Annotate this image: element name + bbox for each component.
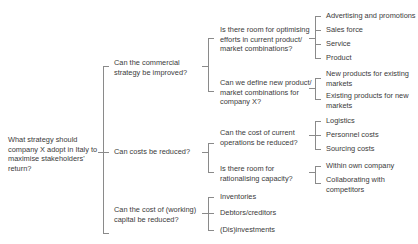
- leaf-disinvestments: (Dis)investments: [220, 225, 275, 235]
- node-new-combinations: Can we define new product/ market combin…: [220, 78, 312, 107]
- leaf-sourcing-costs: Sourcing costs: [326, 144, 374, 154]
- connector-lines: [0, 0, 418, 244]
- node-optimising-efforts: Is there room for optimising efforts in …: [220, 25, 310, 54]
- leaf-personnel-costs: Personnel costs: [326, 130, 379, 140]
- leaf-within-own-company: Within own company: [326, 161, 394, 171]
- leaf-collaborating-competitors: Collaborating with competitors: [326, 175, 385, 194]
- leaf-product: Product: [326, 53, 351, 63]
- leaf-advertising: Advertising and promotions: [326, 11, 416, 21]
- node-current-operations: Can the cost of current operations be re…: [220, 128, 298, 147]
- leaf-service: Service: [326, 39, 351, 49]
- leaf-logistics: Logistics: [326, 116, 355, 126]
- node-working-capital: Can the cost of (working) capital be red…: [114, 205, 196, 224]
- root-question: What strategy should company X adopt in …: [8, 135, 97, 173]
- leaf-inventories: Inventories: [220, 192, 256, 202]
- node-rationalising-capacity: Is there room for rationalising capacity…: [220, 164, 293, 183]
- leaf-new-products-existing-markets: New products for existing markets: [326, 69, 409, 88]
- node-costs: Can costs be reduced?: [114, 147, 190, 157]
- node-commercial-strategy: Can the commercial strategy be improved?: [114, 58, 187, 77]
- leaf-debtors-creditors: Debtors/creditors: [220, 208, 276, 218]
- leaf-sales-force: Sales force: [326, 25, 363, 35]
- leaf-existing-products-new-markets: Existing products for new markets: [326, 91, 409, 110]
